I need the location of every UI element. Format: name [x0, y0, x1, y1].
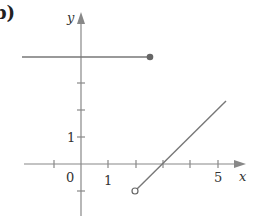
plot-area: 0 1 5 1 x y: [0, 0, 260, 223]
graph-figure: b) 0 1 5 1 x y: [0, 0, 260, 223]
y-tick-label-1: 1: [67, 130, 75, 145]
open-dot-icon: [132, 188, 138, 194]
x-tick-label-0: 0: [66, 170, 74, 185]
x-tick-label-1: 1: [104, 173, 112, 188]
x-axis-label: x: [239, 169, 247, 184]
closed-dot-icon: [147, 54, 154, 61]
diagonal-segment: [137, 101, 226, 189]
x-axis-arrow-icon: [234, 160, 246, 168]
y-axis-arrow-icon: [77, 12, 85, 24]
y-axis-label: y: [66, 10, 75, 25]
x-tick-label-5: 5: [214, 170, 222, 185]
part-label: b): [0, 2, 15, 23]
